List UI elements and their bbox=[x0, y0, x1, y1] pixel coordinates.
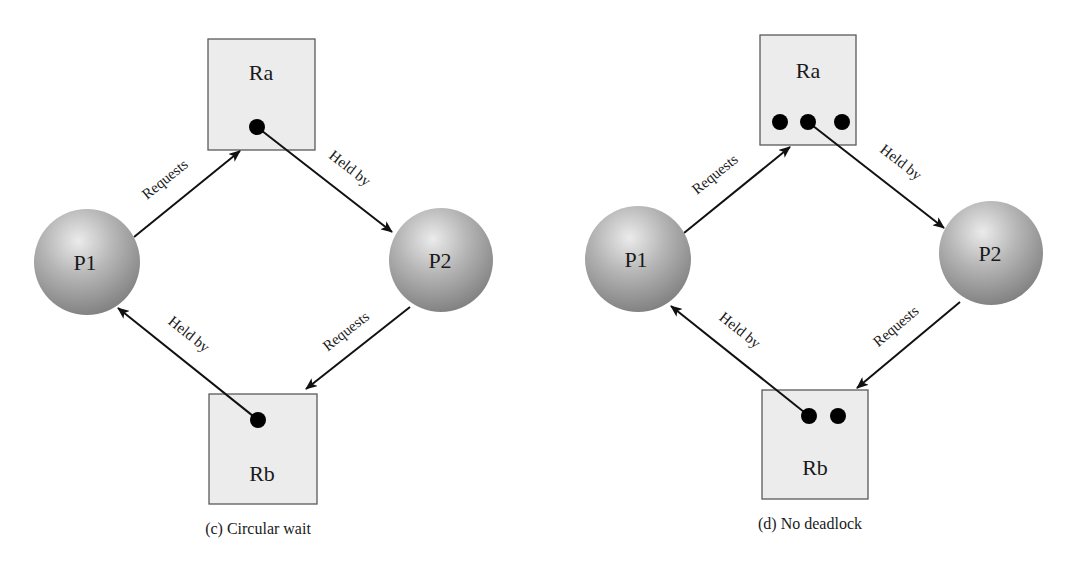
edge-label-requests: Requests bbox=[689, 151, 741, 198]
resource-instance-dot bbox=[772, 114, 788, 130]
process-label: P2 bbox=[978, 241, 1001, 266]
resource-label: Ra bbox=[796, 58, 821, 83]
resource-rb: Rb bbox=[209, 394, 317, 504]
edge-label-requests: Requests bbox=[320, 308, 373, 354]
process-p1: P1 bbox=[34, 209, 140, 315]
process-p1: P1 bbox=[585, 206, 691, 312]
resource-allocation-graphs: Ra Rb P1 P2 Requests Held by Held by Req… bbox=[0, 0, 1079, 565]
resource-label: Rb bbox=[249, 461, 275, 486]
resource-label: Rb bbox=[802, 455, 828, 480]
resource-rb: Rb bbox=[762, 390, 868, 499]
resource-box bbox=[209, 394, 317, 504]
edge-label-requests: Requests bbox=[139, 156, 191, 203]
edge-ra-heldby-p2 bbox=[808, 122, 944, 228]
diagram-no-deadlock: Ra Rb P1 P2 Requests Held by Held by Req… bbox=[585, 35, 1043, 533]
edge-label-held-by: Held by bbox=[165, 313, 213, 356]
process-label: P1 bbox=[624, 247, 647, 272]
resource-instance-dot bbox=[834, 114, 850, 130]
caption-no-deadlock: (d) No deadlock bbox=[758, 515, 862, 533]
edge-label-held-by: Held by bbox=[326, 147, 374, 189]
edge-ra-heldby-p2 bbox=[257, 127, 392, 232]
process-p2: P2 bbox=[389, 208, 493, 312]
diagram-circular-wait: Ra Rb P1 P2 Requests Held by Held by Req… bbox=[34, 39, 493, 538]
edge-label-held-by: Held by bbox=[716, 309, 764, 352]
resource-instance-dot bbox=[800, 114, 816, 130]
process-label: P1 bbox=[73, 250, 96, 275]
resource-instance-dot bbox=[830, 408, 846, 424]
resource-instance-dot bbox=[250, 412, 266, 428]
resource-instance-dot bbox=[801, 408, 817, 424]
edge-label-requests: Requests bbox=[870, 303, 922, 350]
resource-instance-dot bbox=[249, 119, 265, 135]
edge-label-held-by: Held by bbox=[877, 141, 925, 183]
resource-label: Ra bbox=[249, 60, 274, 85]
caption-circular-wait: (c) Circular wait bbox=[205, 520, 311, 538]
resource-box bbox=[762, 390, 868, 499]
process-p2: P2 bbox=[939, 201, 1043, 305]
process-label: P2 bbox=[428, 248, 451, 273]
